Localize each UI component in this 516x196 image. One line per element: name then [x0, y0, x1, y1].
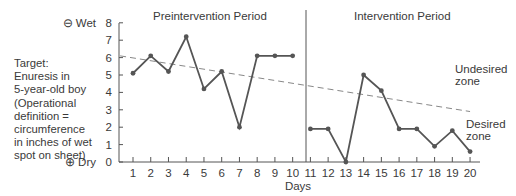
x-tick-label: 6 — [218, 167, 224, 179]
data-point — [414, 127, 419, 132]
x-tick-label: 16 — [393, 167, 406, 179]
y-tick-label: 6 — [106, 52, 112, 64]
x-tick-label: 7 — [236, 167, 242, 179]
x-tick-label: 11 — [304, 167, 316, 179]
x-tick-label: 13 — [339, 167, 352, 179]
y-tick-label: 0 — [106, 156, 112, 168]
data-point — [237, 125, 242, 130]
target-line: Enuresis in — [14, 70, 92, 83]
data-point — [468, 149, 473, 154]
x-tick-label: 18 — [428, 167, 441, 179]
data-point — [361, 73, 366, 78]
desired-zone-label-2: zone — [466, 130, 491, 142]
target-line: 5-year-old boy — [14, 83, 92, 96]
x-tick-label: 8 — [254, 167, 260, 179]
x-tick-label: 1 — [130, 167, 136, 179]
data-point — [202, 87, 207, 92]
y-tick-label: 3 — [106, 104, 112, 116]
intervention-label: Intervention Period — [354, 10, 451, 22]
target-line: circumference — [14, 123, 92, 136]
x-tick-label: 15 — [375, 167, 388, 179]
target-line: definition = — [14, 110, 92, 123]
target-line: in inches of wet — [14, 136, 92, 149]
data-point — [432, 144, 437, 149]
preintervention-label: Preintervention Period — [153, 10, 267, 22]
x-tick-label: 14 — [357, 167, 370, 179]
x-tick-label: 17 — [410, 167, 423, 179]
data-point — [255, 53, 260, 58]
y-tick-label: 8 — [106, 17, 112, 29]
data-point — [166, 69, 171, 74]
y-tick-label: 1 — [106, 139, 112, 151]
data-point — [343, 160, 348, 165]
x-tick-label: 19 — [446, 167, 459, 179]
undesired-zone-label: Undesired — [455, 63, 507, 75]
target-description: Target:Enuresis in5-year-old boy(Operati… — [14, 57, 92, 163]
x-axis-title: Days — [285, 180, 311, 192]
x-tick-label: 4 — [183, 167, 190, 179]
data-point — [379, 88, 384, 93]
x-tick-label: 5 — [201, 167, 207, 179]
data-point — [184, 34, 189, 39]
y-tick-label: 2 — [106, 121, 112, 133]
data-point — [326, 127, 331, 132]
x-tick-label: 10 — [286, 167, 299, 179]
data-series — [131, 34, 473, 164]
y-tick-label: 4 — [106, 86, 113, 98]
data-point — [450, 128, 455, 133]
data-point — [308, 127, 313, 132]
axes — [119, 23, 480, 162]
wet-label: ⊖ Wet — [63, 17, 97, 29]
x-tick-label: 12 — [322, 167, 335, 179]
y-tick-label: 5 — [106, 69, 112, 81]
x-tick-label: 20 — [464, 167, 477, 179]
data-point — [273, 53, 278, 58]
data-point — [290, 53, 295, 58]
data-point — [397, 127, 402, 132]
data-point — [219, 69, 224, 74]
target-line: (Operational — [14, 97, 92, 110]
y-ticks: 012345678 — [106, 17, 123, 168]
y-tick-label: 7 — [106, 34, 112, 46]
undesired-zone-label-2: zone — [455, 75, 480, 87]
target-line: Target: — [14, 57, 92, 70]
x-ticks: 1234567891011121314151617181920 — [130, 157, 477, 179]
x-tick-label: 3 — [165, 167, 171, 179]
desired-zone-label: Desired — [466, 118, 506, 130]
data-point — [148, 53, 153, 58]
x-tick-label: 9 — [272, 167, 278, 179]
data-point — [131, 71, 136, 76]
x-tick-label: 2 — [148, 167, 154, 179]
data-line — [310, 75, 470, 162]
data-line — [133, 37, 293, 127]
target-line: spot on sheet) — [14, 149, 92, 162]
